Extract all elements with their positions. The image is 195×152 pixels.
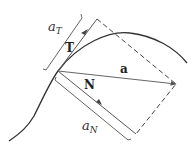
label-a-t: aT — [48, 19, 63, 36]
acceleration-decomposition-diagram: aT T a N aN — [0, 0, 195, 152]
label-unit-tangent: T — [65, 41, 74, 55]
label-unit-normal: N — [84, 78, 95, 92]
label-acceleration: a — [120, 62, 128, 76]
trajectory-curve — [9, 33, 187, 141]
label-a-n: aN — [82, 118, 99, 135]
acceleration-vector — [58, 71, 176, 84]
